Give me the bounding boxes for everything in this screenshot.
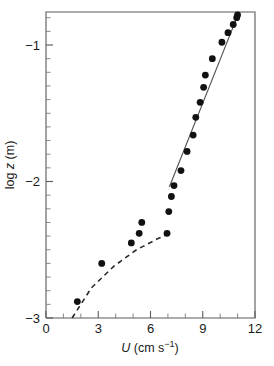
data-point xyxy=(165,208,172,215)
data-point xyxy=(190,132,197,139)
data-point xyxy=(136,230,143,237)
velocity-profile-chart: 036912 −1−2−3 U (cm s−1) log z (m) xyxy=(0,0,274,366)
data-point xyxy=(171,182,178,189)
data-point xyxy=(164,230,171,237)
data-point xyxy=(192,114,199,121)
x-tick-label: 9 xyxy=(199,321,206,336)
x-tick-label: 6 xyxy=(147,321,154,336)
y-tick-label: −3 xyxy=(25,311,40,326)
fit-line-dashed xyxy=(72,232,172,318)
data-point xyxy=(74,298,81,305)
data-point xyxy=(184,148,191,155)
data-point xyxy=(197,99,204,106)
x-axis-title: U (cm s−1) xyxy=(121,339,179,355)
data-point xyxy=(128,240,135,247)
data-point xyxy=(219,39,226,46)
x-tick-label: 3 xyxy=(95,321,102,336)
x-tick-label: 12 xyxy=(248,321,262,336)
y-axis-tick-labels: −1−2−3 xyxy=(25,38,40,326)
data-points xyxy=(74,12,241,305)
y-tick-label: −1 xyxy=(25,38,40,53)
data-point xyxy=(225,29,232,36)
data-point xyxy=(200,84,207,91)
y-axis-title: log z (m) xyxy=(3,141,17,190)
data-point xyxy=(138,219,145,226)
data-point xyxy=(178,167,185,174)
fit-line-solid xyxy=(169,14,238,187)
data-point xyxy=(202,72,209,79)
velocity-profile-figure: 036912 −1−2−3 U (cm s−1) log z (m) xyxy=(0,0,274,366)
data-point xyxy=(98,260,105,267)
data-point xyxy=(209,55,216,62)
data-point xyxy=(234,12,241,19)
x-axis-ticks xyxy=(46,311,255,318)
x-axis-tick-labels: 036912 xyxy=(42,321,262,336)
y-tick-label: −2 xyxy=(25,174,40,189)
data-point xyxy=(168,193,175,200)
x-tick-label: 0 xyxy=(42,321,49,336)
plot-frame xyxy=(46,12,255,318)
data-point xyxy=(230,21,237,28)
y-axis-ticks xyxy=(46,18,53,318)
